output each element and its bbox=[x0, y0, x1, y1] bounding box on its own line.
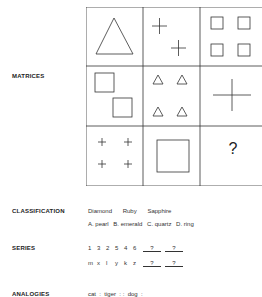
series-blank: ? bbox=[165, 245, 183, 252]
series-row-letters: mxlykz?? bbox=[88, 260, 183, 267]
series-row-numbers: 132546?? bbox=[88, 245, 183, 252]
series-item: 5 bbox=[115, 245, 124, 251]
series-item: 3 bbox=[97, 245, 106, 251]
analogies-label: ANALOGIES bbox=[12, 291, 49, 297]
series-item: m bbox=[88, 260, 97, 266]
analogy-text: cat : tiger : : dog : bbox=[88, 291, 143, 297]
classification-label: CLASSIFICATION bbox=[12, 208, 65, 214]
word: Diamond bbox=[88, 208, 112, 214]
option-c: C. quartz bbox=[147, 221, 171, 227]
series-item: x bbox=[97, 260, 106, 266]
series-item: k bbox=[124, 260, 133, 266]
classification-options: A. pearl B. emerald C. quartz D. ring bbox=[88, 221, 194, 227]
word: Ruby bbox=[123, 208, 137, 214]
series-item: 2 bbox=[106, 245, 115, 251]
series-blank: ? bbox=[165, 260, 183, 267]
series-blank: ? bbox=[143, 245, 161, 252]
matrix-grid bbox=[86, 7, 262, 186]
series-blank: ? bbox=[143, 260, 161, 267]
series-label: SERIES bbox=[12, 245, 35, 251]
series-item: 1 bbox=[88, 245, 97, 251]
series-item: 4 bbox=[124, 245, 133, 251]
series-item: 6 bbox=[133, 245, 139, 251]
series-item: z bbox=[133, 260, 139, 266]
classification-words: Diamond Ruby Sapphire bbox=[88, 208, 171, 214]
matrices-label: MATRICES bbox=[12, 73, 45, 79]
matrix-grid-figures bbox=[86, 7, 262, 186]
series-item: y bbox=[115, 260, 124, 266]
option-d: D. ring bbox=[176, 221, 194, 227]
option-b: B. emerald bbox=[113, 221, 142, 227]
missing-answer-mark: ? bbox=[206, 140, 260, 158]
series-item: l bbox=[106, 260, 115, 266]
option-a: A. pearl bbox=[88, 221, 109, 227]
word: Sapphire bbox=[147, 208, 171, 214]
